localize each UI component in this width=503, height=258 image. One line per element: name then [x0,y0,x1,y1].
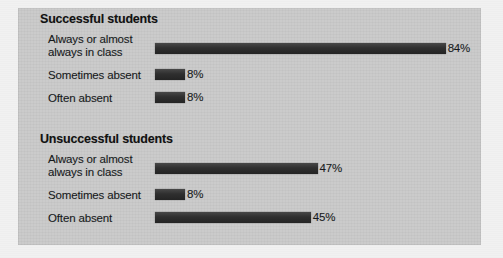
bar [155,92,185,103]
bar-track: 47% [155,163,475,174]
bar-row-label-line2: always in class [48,46,122,58]
bar [155,163,318,174]
bar-row: Sometimes absent 8% [18,65,481,89]
bar-row-label: Sometimes absent [48,69,153,82]
bar-value-label: 45% [313,211,336,224]
bar-row-label-line2: always in class [48,166,122,178]
bar-value-label: 8% [187,68,203,81]
bar-track: 84% [155,43,475,54]
bar-track: 8% [155,92,475,103]
chart-panel: Successful students Always or almost alw… [18,8,481,245]
bar-value-label: 84% [448,42,471,55]
bar-row: Sometimes absent 8% [18,185,481,209]
bar-value-label: 8% [187,188,203,201]
bar-row: Always or almost always in class 47% [18,154,481,178]
bar-row-label: Often absent [48,212,153,225]
bar-row-label: Often absent [48,92,153,105]
bar-track: 8% [155,69,475,80]
group-title-unsuccessful-students: Unsuccessful students [40,132,173,146]
bar-row-label: Sometimes absent [48,189,153,202]
bar-row: Always or almost always in class 84% [18,34,481,58]
bar [155,69,185,80]
bar-value-label: 8% [187,91,203,104]
bar [155,212,311,223]
bar-row-label-line1: Always or almost [48,33,133,45]
bar-track: 8% [155,189,475,200]
bar-value-label: 47% [320,162,343,175]
bar-row-label: Always or almost always in class [48,153,153,178]
bar [155,189,185,200]
bar-track: 45% [155,212,475,223]
group-title-successful-students: Successful students [40,12,158,26]
bar-row-label-line1: Always or almost [48,153,133,165]
bar-row-label: Always or almost always in class [48,33,153,58]
bar-row: Often absent 45% [18,208,481,232]
page-background: Successful students Always or almost alw… [0,0,503,258]
bar [155,43,446,54]
bar-row: Often absent 8% [18,88,481,112]
